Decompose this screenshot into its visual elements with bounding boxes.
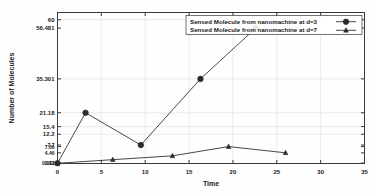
x-axis-tick-label: 0 (56, 169, 60, 175)
plot-frame (58, 13, 365, 164)
line-chart: 05101520253035Time6056.48135.30121.1815.… (0, 0, 377, 194)
series-line-1 (58, 28, 256, 163)
x-axis-tick-label: 5 (100, 169, 104, 175)
chart-legend: Sensed Molecule from nanomachine at d=3S… (186, 16, 362, 35)
y-axis-tick-label: 21.18 (39, 110, 55, 116)
legend-item-label: Sensed Molecule from nanomachine at d=3 (190, 18, 318, 25)
x-axis-tick-label: 20 (230, 169, 237, 175)
y-axis-title: Number of Molecules (8, 53, 15, 124)
x-axis-tick-label: 10 (142, 169, 149, 175)
legend-item-label: Sensed Molecule from nanomachine at d=7 (190, 26, 318, 33)
x-axis-tick-label: 30 (317, 169, 324, 175)
data-point-marker (83, 110, 89, 116)
x-axis-tick-label: 15 (186, 169, 193, 175)
y-axis-tick-label: 0.082 (42, 160, 55, 166)
data-point-marker (138, 142, 144, 148)
data-point-marker (226, 144, 231, 148)
x-axis-title: Time (203, 180, 219, 187)
chart-container: 05101520253035Time6056.48135.30121.1815.… (0, 0, 377, 194)
y-axis-tick-label: 12.2 (43, 131, 55, 137)
grid-lines (58, 13, 365, 164)
x-axis-tick-label: 35 (361, 169, 368, 175)
y-axis-tick-label: 7.06 (45, 144, 55, 150)
legend-marker-circle-icon (343, 19, 349, 25)
y-axis-tick-label: 35.301 (36, 76, 55, 82)
data-point-marker (198, 76, 204, 82)
x-axis-tick-label: 25 (273, 169, 280, 175)
y-axis-tick-label: 15.4 (43, 124, 55, 130)
data-series-2 (55, 144, 288, 165)
y-axis-tick-label: 60 (48, 17, 55, 23)
y-axis: 6056.48135.30121.1815.412.27.77.064.460.… (8, 17, 365, 167)
y-axis-tick-label: 56.481 (36, 25, 55, 31)
y-axis-tick-label: 4.46 (45, 150, 55, 156)
